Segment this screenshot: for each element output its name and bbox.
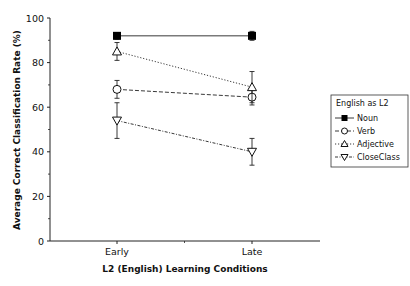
series-line [117,51,252,87]
y-tick-label: 20 [32,191,44,202]
y-tick-label: 60 [32,102,44,113]
series-closeclass [113,103,257,165]
triangle-up-marker-icon [248,83,257,91]
y-tick-label: 40 [32,146,44,157]
legend-label: Noun [357,114,378,123]
series-line [117,121,252,152]
triangle-down-marker-icon [248,148,257,156]
series-noun [113,31,256,40]
square-marker-icon [342,115,348,121]
square-marker-icon [113,32,121,40]
series-line [117,89,252,97]
legend-title: English as L2 [336,99,389,108]
legend-item-closeclass: CloseClass [335,153,400,162]
line-chart: 020406080100EarlyLate L2 (English) Learn… [0,0,410,286]
square-marker-icon [248,32,256,40]
legend-label: Verb [357,127,375,136]
y-tick-label: 0 [38,236,44,247]
circle-marker-icon [342,128,348,134]
axes: 020406080100EarlyLate [26,13,320,258]
legend-label: Adjective [357,140,394,149]
x-tick-label: Late [242,246,263,257]
series-verb [113,80,256,105]
triangle-down-marker-icon [113,117,122,125]
y-tick-label: 80 [32,57,44,68]
legend: English as L2 NounVerbAdjectiveCloseClas… [331,95,408,167]
circle-marker-icon [113,85,121,93]
y-tick-label: 100 [26,13,44,24]
legend-label: CloseClass [357,153,400,162]
y-axis-label: Average Correct Classification Rate (%) [12,30,22,230]
x-axis-label: L2 (English) Learning Conditions [102,264,267,274]
series-group [113,31,257,165]
triangle-up-marker-icon [113,47,122,55]
x-tick-label: Early [105,246,129,257]
